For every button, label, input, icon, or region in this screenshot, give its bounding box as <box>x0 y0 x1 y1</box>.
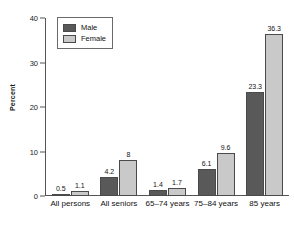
bar-rect <box>168 188 186 196</box>
bar-group: 23.336.3 <box>240 18 289 196</box>
y-axis-title: Percent <box>6 0 20 195</box>
bar-value-label: 9.6 <box>221 144 231 151</box>
bar-male: 1.4 <box>149 18 167 196</box>
bar-rect <box>198 169 216 196</box>
bar-rect <box>246 92 264 196</box>
bar-rect <box>119 160 137 196</box>
y-tick-mark <box>40 107 45 108</box>
y-tick-mark <box>40 151 45 152</box>
bar-value-label: 1.4 <box>153 181 163 188</box>
bar-rect <box>265 34 283 196</box>
legend-swatch-female-icon <box>63 35 76 43</box>
bar-rect <box>217 153 235 196</box>
bar-group: 1.41.7 <box>143 18 192 196</box>
x-tick-label: 65–74 years <box>145 199 189 208</box>
bar-value-label: 6.1 <box>202 160 212 167</box>
bar-value-label: 23.3 <box>248 83 262 90</box>
legend-swatch-male-icon <box>63 24 76 32</box>
y-tick-label: 30 <box>30 58 38 67</box>
bar-value-label: 8 <box>126 151 130 158</box>
y-tick-mark <box>40 18 45 19</box>
bar-value-label: 1.1 <box>75 182 85 189</box>
y-tick-label: 10 <box>30 147 38 156</box>
x-axis-tick-labels: All personsAll seniors65–74 years75–84 y… <box>46 199 289 215</box>
bar-rect <box>71 191 89 196</box>
legend-label-female: Female <box>81 34 106 43</box>
bar-rect <box>52 194 70 196</box>
legend-label-male: Male <box>81 23 97 32</box>
bar-rect <box>100 177 118 196</box>
legend-item-female: Female <box>63 33 106 44</box>
x-tick-label: 75–84 years <box>194 199 238 208</box>
bar-male: 23.3 <box>246 18 264 196</box>
bar-female: 8 <box>119 18 137 196</box>
bar-value-label: 4.2 <box>105 168 115 175</box>
bar-female: 9.6 <box>217 18 235 196</box>
bar-rect <box>149 190 167 196</box>
bar-value-label: 0.5 <box>56 185 66 192</box>
legend-item-male: Male <box>63 22 106 33</box>
x-tick-label: 85 years <box>249 199 280 208</box>
bar-female: 1.7 <box>168 18 186 196</box>
bar-group: 6.19.6 <box>192 18 241 196</box>
x-tick-label: All persons <box>51 199 91 208</box>
y-axis-tick-labels: 010203040 <box>20 18 42 196</box>
x-tick-label: All seniors <box>100 199 137 208</box>
y-tick-label: 20 <box>30 103 38 112</box>
bar-male: 6.1 <box>198 18 216 196</box>
bar-value-label: 36.3 <box>267 25 281 32</box>
y-tick-mark <box>40 62 45 63</box>
y-tick-mark <box>40 196 45 197</box>
y-tick-label: 0 <box>34 192 38 201</box>
bar-value-label: 1.7 <box>172 179 182 186</box>
bar-female: 36.3 <box>265 18 283 196</box>
legend: Male Female <box>57 17 113 49</box>
y-tick-label: 40 <box>30 14 38 23</box>
y-axis-title-text: Percent <box>10 84 17 111</box>
bar-chart: Percent 010203040 0.51.14.281.41.76.19.6… <box>0 0 294 229</box>
